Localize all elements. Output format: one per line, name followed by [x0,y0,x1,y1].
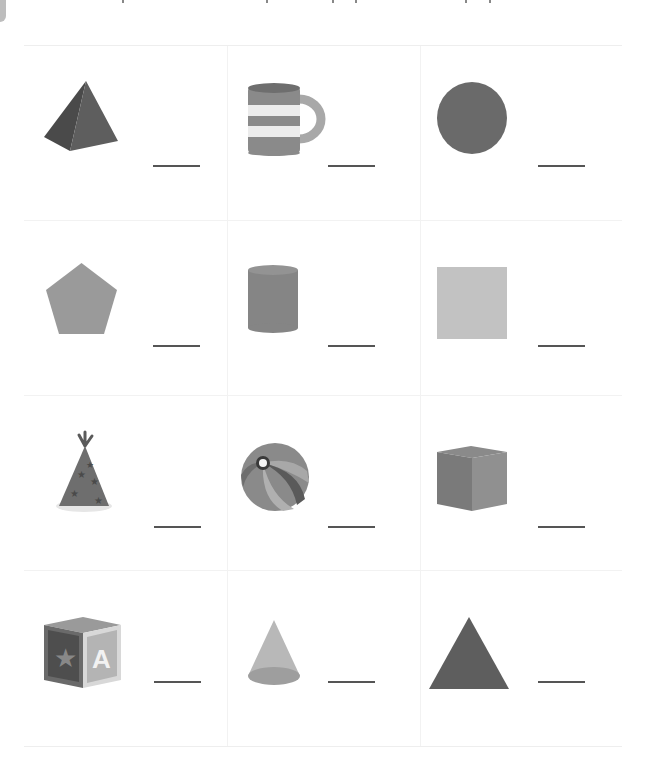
svg-text:★: ★ [90,476,99,487]
cell-cone [228,571,421,746]
pyramid-icon [42,79,120,154]
answer-line[interactable] [328,165,375,167]
cell-cube [421,396,622,571]
cube-icon [436,445,508,512]
beach-ball-icon [239,441,311,513]
answer-line[interactable] [538,165,585,167]
cell-pyramid [24,46,228,221]
svg-text:★: ★ [94,495,103,506]
cell-triangle [421,571,622,746]
answer-line[interactable] [328,345,375,347]
answer-line[interactable] [328,681,375,683]
circle-icon [437,82,507,154]
answer-line[interactable] [328,526,375,528]
svg-text:★: ★ [86,460,94,470]
answer-line[interactable] [538,526,585,528]
cell-cylinder [228,221,421,396]
cell-party-hat: ★ ★ ★ ★ ★ [24,396,228,571]
answer-line[interactable] [153,345,200,347]
square-icon [437,267,507,339]
alphabet-block-icon: ★ A [43,616,123,690]
shapes-worksheet: ★ ★ ★ ★ ★ [24,45,622,747]
block-letter: A [92,644,111,674]
cell-circle [421,46,622,221]
answer-line[interactable] [538,345,585,347]
answer-line[interactable] [538,681,585,683]
cone-icon [247,619,301,687]
cell-mug [228,46,421,221]
cell-square [421,221,622,396]
shapes-grid: ★ ★ ★ ★ ★ [24,46,622,746]
answer-line[interactable] [153,165,200,167]
clipped-header-text [0,0,649,4]
cell-beach-ball [228,396,421,571]
party-hat-icon: ★ ★ ★ ★ ★ [54,430,116,516]
mug-icon [247,81,327,157]
answer-line[interactable] [154,526,201,528]
svg-text:★: ★ [77,469,86,480]
cell-alphabet-block: ★ A [24,571,228,746]
answer-line[interactable] [154,681,201,683]
cell-pentagon [24,221,228,396]
cylinder-icon [247,264,299,334]
svg-text:★: ★ [54,643,77,673]
svg-text:★: ★ [70,488,79,499]
pentagon-icon [44,262,119,335]
triangle-icon [428,616,510,690]
